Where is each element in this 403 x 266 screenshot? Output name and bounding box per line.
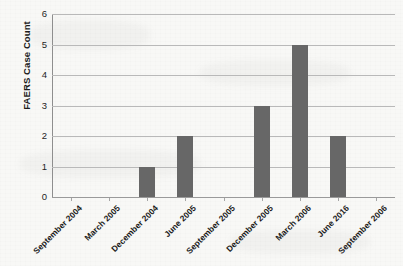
x-tick xyxy=(376,198,377,201)
y-tick-label: 2 xyxy=(25,131,47,141)
bar xyxy=(254,106,270,198)
x-tick xyxy=(185,198,186,201)
bar xyxy=(139,167,155,198)
bar-chart: FAERS Case Count 0123456 September 2004M… xyxy=(0,0,403,266)
bar xyxy=(177,136,193,197)
gridline xyxy=(52,106,395,107)
y-tick-label: 3 xyxy=(25,101,47,111)
gridline xyxy=(52,45,395,46)
bar xyxy=(292,45,308,198)
plot-area xyxy=(52,14,395,197)
x-tick-label: March 2005 xyxy=(83,203,123,243)
gridline xyxy=(52,75,395,76)
x-tick xyxy=(147,198,148,201)
y-tick-label: 0 xyxy=(25,192,47,202)
x-tick xyxy=(71,198,72,201)
x-tick xyxy=(338,198,339,201)
y-tick-label: 1 xyxy=(25,162,47,172)
y-tick-label: 4 xyxy=(25,70,47,80)
x-tick xyxy=(109,198,110,201)
bar xyxy=(330,136,346,197)
x-tick-label: June 2016 xyxy=(315,203,351,239)
x-tick xyxy=(262,198,263,201)
y-tick-label: 6 xyxy=(25,9,47,19)
gridline xyxy=(52,14,395,15)
x-tick-label: September 2004 xyxy=(31,203,84,256)
x-tick-label: June 2005 xyxy=(162,203,198,239)
y-axis-title: FAERS Case Count xyxy=(21,0,32,136)
y-tick-label: 5 xyxy=(25,40,47,50)
x-tick xyxy=(224,198,225,201)
x-tick xyxy=(300,198,301,201)
x-tick-label: March 2006 xyxy=(273,203,313,243)
